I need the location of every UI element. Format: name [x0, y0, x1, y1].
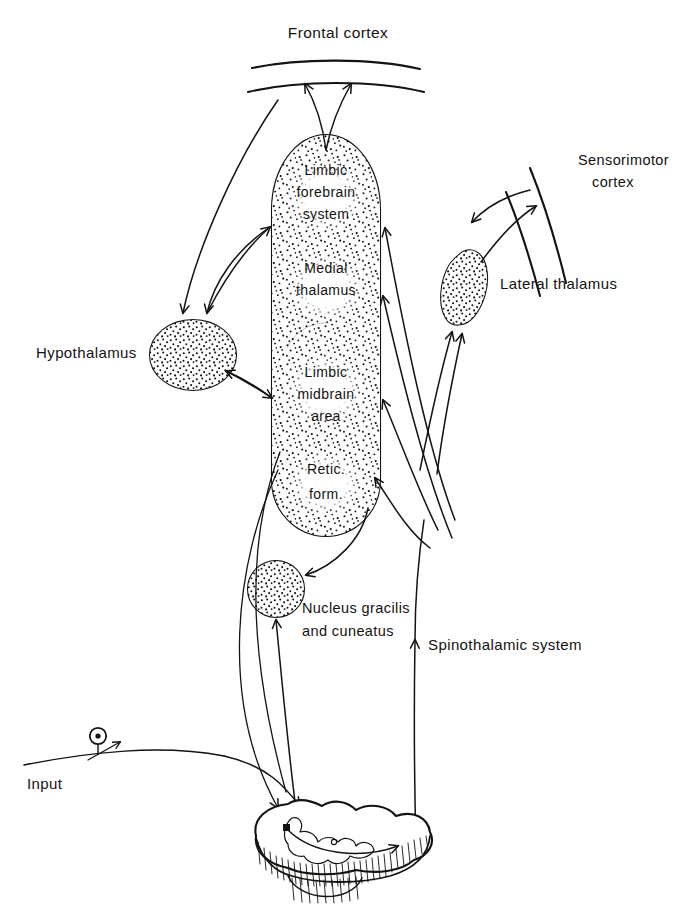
- label-nucleus-gracilis-line2: and cuneatus: [302, 623, 394, 639]
- lateral-thalamus-shape: [436, 242, 492, 332]
- diagram-canvas: Frontal cortex Sensorimotor cortex Limbi…: [0, 0, 679, 912]
- label-lateral-thalamus: Lateral thalamus: [500, 275, 617, 292]
- label-reticular-formation-line2: form.: [278, 486, 374, 502]
- hypothalamus-shape: [148, 318, 240, 394]
- diagram-svg: [0, 0, 679, 912]
- label-medial-thalamus-line1: Medial: [276, 260, 376, 276]
- label-limbic-forebrain-line3: system: [276, 206, 376, 222]
- label-frontal-cortex: Frontal cortex: [248, 24, 428, 42]
- label-limbic-midbrain-line2: midbrain: [272, 386, 380, 402]
- spinal-cord-to-nucleus-gracilis-arrow: [276, 620, 296, 810]
- label-spinothalamic-system: Spinothalamic system: [428, 636, 582, 653]
- label-nucleus-gracilis-line1: Nucleus gracilis: [302, 600, 410, 616]
- label-limbic-midbrain-line1: Limbic: [276, 364, 376, 380]
- nucleus-gracilis-cuneatus-shape: [246, 559, 306, 619]
- spinothalamic-to-lateral-thalamus-arrows: [420, 332, 462, 474]
- spinal-cord-to-spinothalamic-arrow: [414, 520, 424, 846]
- label-limbic-forebrain-line2: forebrain: [272, 184, 380, 200]
- label-limbic-midbrain-line3: area: [276, 408, 376, 424]
- label-limbic-forebrain-line1: Limbic: [276, 162, 376, 178]
- label-reticular-formation-line1: Retic.: [278, 461, 374, 477]
- label-input: Input: [27, 775, 62, 792]
- label-hypothalamus: Hypothalamus: [36, 344, 137, 361]
- label-sensorimotor-cortex-line1: Sensorimotor: [578, 152, 669, 168]
- label-medial-thalamus-line2: thalamus: [272, 282, 380, 298]
- spinal-cord-section: [255, 800, 432, 903]
- frontal-cortex-band: [248, 61, 424, 92]
- label-sensorimotor-cortex-line2: cortex: [592, 174, 634, 190]
